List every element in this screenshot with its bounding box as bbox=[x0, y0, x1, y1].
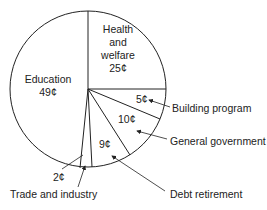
pie-chart: Health and welfare 25¢ Education 49¢ 5¢ … bbox=[0, 0, 267, 210]
debt-arrow bbox=[112, 156, 165, 191]
debt-value: 9¢ bbox=[99, 138, 111, 150]
trade-callout: Trade and industry bbox=[10, 188, 98, 200]
health-label-1: Health bbox=[103, 23, 134, 35]
general-callout: General government bbox=[170, 135, 266, 147]
health-value: 25¢ bbox=[109, 62, 127, 74]
trade-arrow bbox=[78, 166, 85, 187]
education-label: Education bbox=[25, 73, 72, 85]
building-value: 5¢ bbox=[136, 93, 148, 105]
health-label-2: and bbox=[109, 36, 127, 48]
health-label-3: welfare bbox=[100, 49, 135, 61]
building-callout: Building program bbox=[172, 102, 252, 114]
education-value: 49¢ bbox=[39, 86, 57, 98]
trade-value: 2¢ bbox=[53, 171, 65, 183]
general-value: 10¢ bbox=[118, 113, 136, 125]
debt-callout: Debt retirement bbox=[170, 188, 242, 200]
